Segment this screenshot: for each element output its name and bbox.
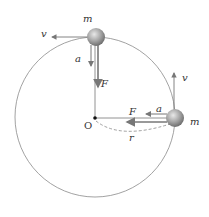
label-center: O bbox=[84, 121, 92, 131]
label-mass-right: m bbox=[190, 117, 199, 127]
label-accel-right: a bbox=[156, 104, 162, 114]
mass-right bbox=[166, 109, 184, 127]
label-mass-top: m bbox=[83, 14, 92, 24]
label-velocity-top: v bbox=[41, 29, 47, 39]
label-velocity-right: v bbox=[182, 73, 188, 83]
mass-top bbox=[87, 28, 105, 46]
center-point bbox=[93, 116, 97, 120]
circular-motion-diagram bbox=[0, 0, 209, 217]
label-force-right: F bbox=[129, 107, 136, 117]
label-accel-top: a bbox=[75, 54, 81, 64]
label-force-top: F bbox=[101, 79, 108, 89]
label-radius: r bbox=[129, 133, 134, 143]
